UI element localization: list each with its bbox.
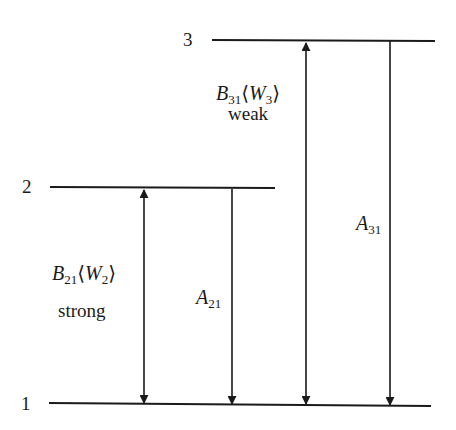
b21-subscript: 21 bbox=[64, 272, 77, 287]
b31-symbol: B bbox=[216, 82, 228, 104]
b21-symbol: B bbox=[52, 262, 64, 284]
a31-subscript: 31 bbox=[368, 222, 381, 237]
level-2-line bbox=[50, 187, 275, 188]
w2-symbol: W bbox=[85, 262, 102, 284]
a31-symbol: A bbox=[356, 212, 368, 234]
a31-rate-label: A31 bbox=[356, 213, 381, 236]
level-2-label: 2 bbox=[22, 177, 32, 196]
diagram-lines bbox=[0, 0, 456, 430]
w3-symbol: W bbox=[249, 82, 266, 104]
level-3-line bbox=[212, 40, 435, 41]
a21-rate-label: A21 bbox=[196, 287, 221, 310]
b21-strength-label: strong bbox=[58, 301, 106, 320]
level-1-label: 1 bbox=[21, 394, 31, 413]
angle-open: ⟨ bbox=[241, 82, 249, 104]
angle-open: ⟨ bbox=[77, 262, 85, 284]
level-1-line bbox=[49, 403, 431, 406]
a21-subscript: 21 bbox=[208, 296, 221, 311]
angle-close: ⟩ bbox=[272, 82, 280, 104]
a21-symbol: A bbox=[196, 286, 208, 308]
level-3-label: 3 bbox=[183, 30, 193, 49]
b21-rate-label: B21⟨W2⟩ bbox=[52, 263, 116, 286]
b31-strength-label: weak bbox=[228, 104, 268, 123]
energy-level-diagram: 3 2 1 B31⟨W3⟩ weak A31 B21⟨W2⟩ strong A2… bbox=[0, 0, 456, 430]
angle-close: ⟩ bbox=[108, 262, 116, 284]
